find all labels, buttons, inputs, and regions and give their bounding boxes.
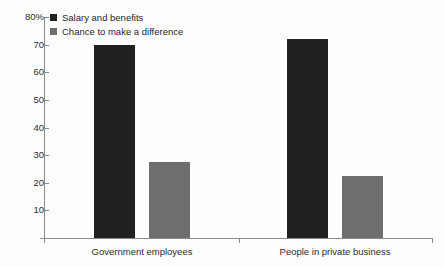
y-axis-tick-text: 70 bbox=[4, 40, 44, 50]
x-axis-category-label: Government employees bbox=[42, 246, 242, 258]
bar bbox=[342, 176, 383, 238]
y-axis-tick-label: 20 bbox=[0, 178, 44, 188]
y-axis-tick-label: 10 bbox=[0, 205, 44, 215]
legend-swatch-icon bbox=[50, 14, 57, 21]
y-axis-tick bbox=[44, 183, 49, 184]
y-axis-tick-label: 70 bbox=[0, 40, 44, 50]
y-axis-tick bbox=[44, 72, 49, 73]
x-axis-tick bbox=[239, 238, 240, 243]
legend-swatch-icon bbox=[50, 28, 57, 35]
y-axis-tick-text: 10 bbox=[4, 205, 44, 215]
legend-item-label: Chance to make a difference bbox=[62, 26, 183, 37]
y-axis-tick bbox=[44, 45, 49, 46]
y-axis-tick bbox=[44, 210, 49, 211]
x-axis-line bbox=[40, 238, 432, 239]
y-axis-tick-text: 30 bbox=[4, 150, 44, 160]
bar bbox=[94, 45, 135, 238]
y-axis-tick-text: 80% bbox=[4, 12, 44, 22]
legend-item: Salary and benefits bbox=[50, 11, 183, 23]
y-axis-tick-label: 80% bbox=[0, 12, 44, 22]
y-axis-tick-text: 60 bbox=[4, 67, 44, 77]
y-axis-tick-text: 50 bbox=[4, 95, 44, 105]
legend-item: Chance to make a difference bbox=[50, 25, 183, 37]
x-axis-tick bbox=[44, 238, 45, 243]
bar-chart: 1020304050607080% Government employeesPe… bbox=[0, 0, 445, 267]
y-axis-tick bbox=[44, 155, 49, 156]
chart-legend: Salary and benefitsChance to make a diff… bbox=[50, 11, 183, 39]
y-axis-tick-label: 60 bbox=[0, 67, 44, 77]
y-axis-tick-label: 50 bbox=[0, 95, 44, 105]
y-axis-tick-label: 30 bbox=[0, 150, 44, 160]
y-axis-tick-text: 40 bbox=[4, 123, 44, 133]
y-axis-tick-label: 40 bbox=[0, 123, 44, 133]
y-axis-tick-text: 20 bbox=[4, 178, 44, 188]
x-axis-category-label: People in private business bbox=[235, 246, 435, 258]
bar bbox=[149, 162, 190, 238]
bar bbox=[287, 39, 328, 238]
y-axis-tick bbox=[44, 100, 49, 101]
y-axis-tick bbox=[44, 17, 49, 18]
legend-item-label: Salary and benefits bbox=[62, 12, 143, 23]
x-axis-tick bbox=[432, 238, 433, 243]
y-axis-tick bbox=[44, 128, 49, 129]
